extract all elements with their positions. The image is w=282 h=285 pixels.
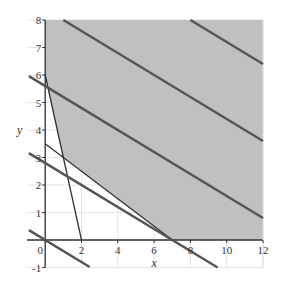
y-tick-label: 6 bbox=[36, 69, 42, 81]
x-tick-label: 0 bbox=[37, 244, 43, 256]
y-tick-label: 8 bbox=[36, 14, 42, 26]
x-tick-label: 8 bbox=[188, 244, 194, 256]
x-tick-label: 4 bbox=[115, 244, 121, 256]
x-tick-label: 10 bbox=[221, 244, 233, 256]
y-tick-label: 3 bbox=[36, 152, 42, 164]
y-tick-label: 2 bbox=[36, 179, 42, 191]
x-axis-label: x bbox=[150, 256, 157, 270]
y-tick-label: 5 bbox=[36, 97, 42, 109]
feasible-region bbox=[45, 20, 263, 240]
y-tick-label: 1 bbox=[36, 207, 42, 219]
y-tick-label: -1 bbox=[32, 262, 41, 274]
linear-programming-chart: 024681012-112345678 x y bbox=[0, 0, 282, 285]
x-tick-label: 6 bbox=[151, 244, 157, 256]
y-tick-label: 7 bbox=[36, 42, 42, 54]
x-tick-label: 2 bbox=[79, 244, 85, 256]
x-tick-label: 12 bbox=[258, 244, 269, 256]
y-tick-label: 4 bbox=[36, 124, 42, 136]
y-axis-label: y bbox=[16, 123, 23, 137]
